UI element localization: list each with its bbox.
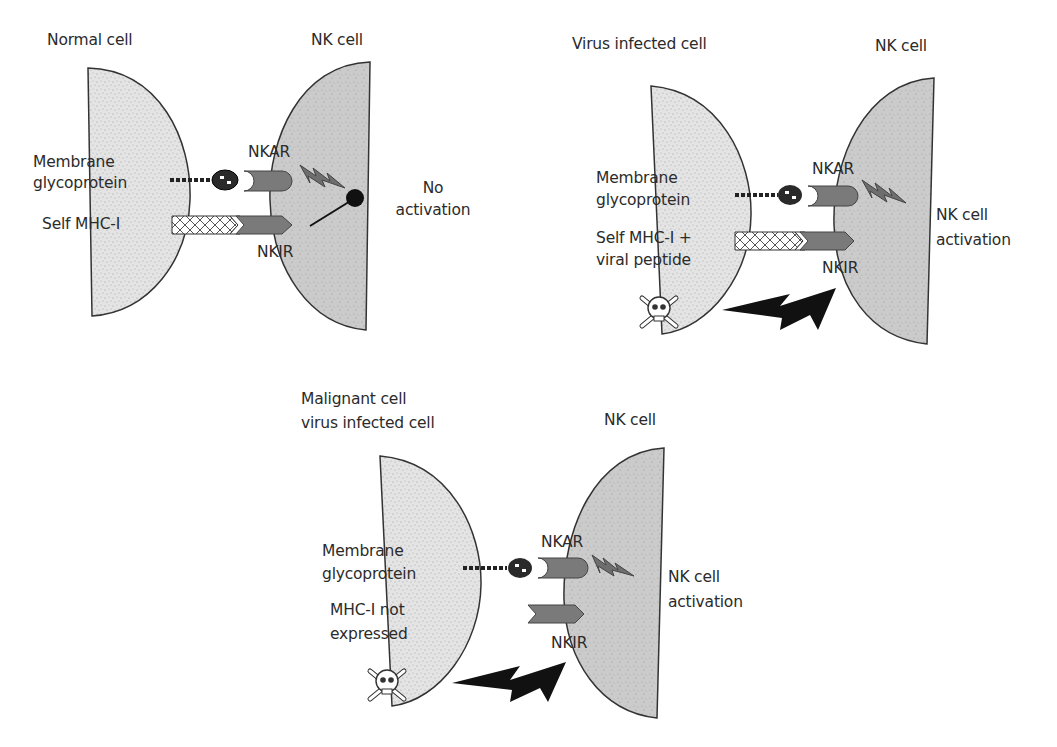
self-mhc-label-1: Self MHC-I [42, 214, 120, 235]
membrane-glycoprotein-label-1b: glycoprotein [33, 173, 127, 194]
outcome-label-1b: activation [383, 200, 483, 221]
panel-virus [642, 78, 934, 344]
nkir-label-1: NKIR [257, 242, 293, 263]
mhc-ligand-icon [172, 216, 238, 234]
killing-bolt-icon-3 [452, 662, 566, 702]
mhc-not-expressed-label-a: MHC-I not [330, 600, 405, 621]
nkar-receptor-icon [244, 171, 292, 191]
killing-bolt-icon [722, 288, 836, 330]
nk-cell-title-1: NK cell [311, 30, 363, 51]
nkar-receptor-icon-3 [538, 558, 588, 578]
diagram-canvas [0, 0, 1057, 747]
nkar-receptor-icon-2 [808, 186, 858, 206]
nk-cell-title-2: NK cell [875, 36, 927, 57]
membrane-glycoprotein-label-2b: glycoprotein [596, 190, 690, 211]
nkir-label-3: NKIR [551, 633, 587, 654]
malignant-cell-title-b: virus infected cell [301, 413, 435, 434]
membrane-glycoprotein-label-3a: Membrane [322, 541, 403, 562]
outcome-label-2b: activation [936, 230, 1011, 251]
outcome-label-3b: activation [668, 592, 743, 613]
inhibitory-block-icon [346, 189, 364, 207]
nkir-label-2: NKIR [822, 258, 858, 279]
membrane-glycoprotein-label-1a: Membrane [33, 152, 114, 173]
nkar-label-1: NKAR [248, 142, 290, 163]
mhc-viral-ligand-icon [735, 232, 803, 250]
normal-cell-title: Normal cell [47, 30, 132, 51]
outcome-label-3a: NK cell [668, 567, 720, 588]
nkir-receptor-icon-3 [528, 605, 584, 623]
self-mhc-viral-label-2a: Self MHC-I + [596, 228, 692, 249]
nkir-receptor-icon-2 [800, 232, 854, 250]
nk-cell-shape-3 [564, 448, 664, 718]
outcome-label-1a: No [383, 178, 483, 199]
membrane-glycoprotein-label-3b: glycoprotein [322, 564, 416, 585]
membrane-glycoprotein-label-2a: Membrane [596, 168, 677, 189]
nkar-label-3: NKAR [541, 532, 583, 553]
virus-cell-title: Virus infected cell [572, 34, 707, 55]
nk-cell-title-3: NK cell [604, 410, 656, 431]
nkar-label-2: NKAR [812, 159, 854, 180]
outcome-label-2a: NK cell [936, 205, 988, 226]
mhc-not-expressed-label-b: expressed [330, 624, 408, 645]
nkir-receptor-icon [236, 216, 292, 234]
nk-cell-shape-2 [834, 78, 934, 344]
malignant-cell-title-a: Malignant cell [301, 389, 406, 410]
self-mhc-viral-label-2b: viral peptide [596, 250, 691, 271]
panel-normal [88, 62, 370, 330]
